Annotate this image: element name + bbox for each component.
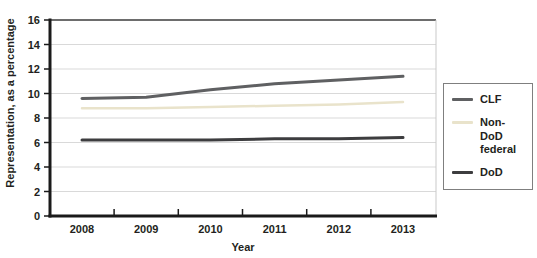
x-tick-label-2011: 2011 xyxy=(263,223,287,235)
x-tick-label-2013: 2013 xyxy=(391,223,415,235)
y-tick-label-2: 2 xyxy=(34,186,40,198)
legend-label: DoD xyxy=(480,166,503,180)
legend-label: Non-DoD federal xyxy=(480,116,524,157)
legend-label: CLF xyxy=(480,93,501,107)
data-series-lines xyxy=(82,76,403,140)
legend-swatch-icon xyxy=(452,98,473,101)
y-tick-label-14: 14 xyxy=(28,39,41,51)
x-tick-label-2012: 2012 xyxy=(327,223,351,235)
y-axis-title: Representation, as a percentage xyxy=(4,18,16,187)
x-tick-label-2008: 2008 xyxy=(70,223,94,235)
x-tick-label-2009: 2009 xyxy=(134,223,158,235)
y-tick-label-12: 12 xyxy=(28,63,40,75)
y-tick-label-10: 10 xyxy=(28,88,40,100)
legend-swatch-icon xyxy=(452,121,473,124)
y-tick-label-6: 6 xyxy=(34,137,40,149)
legend-item-clf: CLF xyxy=(452,93,524,107)
series-line-non-dod-federal xyxy=(82,102,403,108)
legend-item-non-dod-federal: Non-DoD federal xyxy=(452,116,524,157)
series-line-clf xyxy=(82,76,403,98)
chart-legend: CLFNon-DoD federalDoD xyxy=(443,83,533,190)
y-tick-label-0: 0 xyxy=(34,210,40,222)
legend-item-dod: DoD xyxy=(452,166,524,180)
y-tick-label-16: 16 xyxy=(28,14,40,26)
tick-labels: 0246810121416200820092010201120122013 xyxy=(28,14,415,235)
legend-swatch-icon xyxy=(452,171,473,174)
y-tick-label-4: 4 xyxy=(34,161,41,173)
series-line-dod xyxy=(82,138,403,140)
y-tick-label-8: 8 xyxy=(34,112,40,124)
x-tick-label-2010: 2010 xyxy=(198,223,222,235)
line-chart-figure: 0246810121416200820092010201120122013 Re… xyxy=(0,0,537,258)
gridlines xyxy=(50,20,436,216)
x-axis-title: Year xyxy=(231,241,255,253)
